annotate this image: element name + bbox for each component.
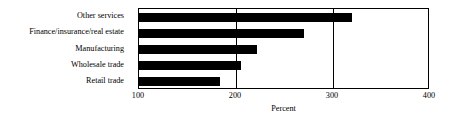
category-label: Finance/insurance/real estate (29, 24, 124, 40)
bar (139, 13, 352, 22)
category-label: Other services (77, 8, 124, 24)
x-tick-label: 400 (423, 90, 435, 102)
category-label: Manufacturing (75, 41, 124, 57)
bar (139, 61, 241, 70)
x-tick-label: 100 (132, 90, 144, 102)
bar-series (139, 9, 428, 88)
category-axis-labels: Other servicesFinance/insurance/real est… (0, 8, 131, 89)
bar (139, 29, 304, 38)
category-label: Retail trade (86, 73, 124, 89)
plot-area (138, 8, 429, 89)
bar (139, 45, 257, 54)
x-axis-title: Percent (138, 103, 429, 115)
x-axis-tick-labels: 100200300400 (138, 90, 429, 102)
bar-chart-figure: Other servicesFinance/insurance/real est… (0, 0, 457, 122)
bar (139, 77, 220, 86)
x-tick-label: 200 (229, 90, 241, 102)
category-label: Wholesale trade (71, 57, 124, 73)
x-tick-label: 300 (326, 90, 338, 102)
